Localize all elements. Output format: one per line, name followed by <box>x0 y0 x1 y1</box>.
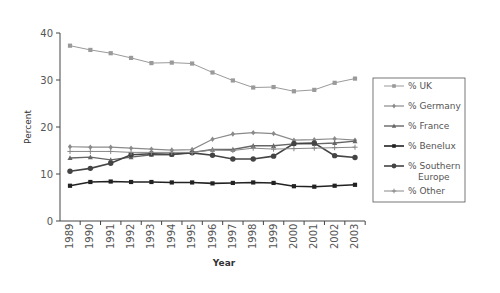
data-point <box>333 184 337 188</box>
data-point <box>109 179 113 183</box>
y-tick-label: 30 <box>40 75 53 86</box>
chart-series <box>67 44 357 189</box>
y-tick-label: 40 <box>40 28 53 39</box>
legend-box <box>373 78 465 202</box>
data-point <box>312 88 316 92</box>
data-point <box>210 153 215 158</box>
x-tick-label: 1996 <box>207 224 218 249</box>
data-point <box>231 131 235 136</box>
data-point <box>231 181 235 185</box>
data-point <box>170 61 174 65</box>
data-point <box>353 183 357 187</box>
data-point <box>88 48 92 52</box>
data-point <box>68 184 72 188</box>
legend-label-line2: Europe <box>418 172 450 182</box>
chart-legend: % UK% Germany% France% Benelux% Southern… <box>373 78 465 202</box>
data-point <box>312 140 317 145</box>
legend-label: % Other <box>408 186 445 196</box>
y-tick-label: 20 <box>40 122 53 133</box>
x-tick-label: 1998 <box>247 224 258 249</box>
data-point <box>271 85 275 89</box>
data-point <box>210 70 214 74</box>
data-point <box>251 130 255 135</box>
series---uk <box>68 44 357 94</box>
data-point <box>271 153 276 158</box>
x-tick-label: 2000 <box>288 224 299 249</box>
data-point <box>67 168 72 173</box>
x-tick-label: 2001 <box>308 224 319 249</box>
x-tick-label: 1995 <box>186 224 197 249</box>
data-point <box>170 180 174 184</box>
data-point <box>292 184 296 188</box>
data-point <box>271 131 275 136</box>
data-point <box>68 144 72 149</box>
data-point <box>332 153 337 158</box>
data-point <box>392 144 396 148</box>
x-tick-label: 2003 <box>349 224 360 249</box>
data-point <box>149 61 153 65</box>
data-point <box>190 61 194 65</box>
legend-label: % Benelux <box>408 141 457 151</box>
chart-axes: 0102030401989199019911992199319941995199… <box>40 28 365 249</box>
x-tick-label: 2002 <box>329 224 340 249</box>
data-point <box>108 160 113 165</box>
data-point <box>291 141 296 146</box>
legend-label: % France <box>408 121 450 131</box>
data-point <box>353 76 357 80</box>
data-point <box>68 44 72 48</box>
x-tick-label: 1994 <box>166 224 177 249</box>
data-point <box>312 185 316 189</box>
legend-label: % UK <box>408 81 433 91</box>
data-point <box>231 78 235 82</box>
data-point <box>88 166 93 171</box>
data-point <box>129 56 133 60</box>
data-point <box>230 156 235 161</box>
data-point <box>149 180 153 184</box>
data-point <box>271 181 275 185</box>
data-point <box>88 180 92 184</box>
data-point <box>251 85 255 89</box>
data-point <box>392 84 396 88</box>
data-point <box>292 89 296 93</box>
x-tick-label: 1992 <box>125 224 136 249</box>
line-chart: 0102030401989199019911992199319941995199… <box>0 0 500 293</box>
y-tick-label: 0 <box>47 216 53 227</box>
x-tick-label: 1991 <box>105 224 116 249</box>
data-point <box>352 155 357 160</box>
data-point <box>109 51 113 55</box>
data-point <box>251 180 255 184</box>
x-tick-label: 1997 <box>227 224 238 249</box>
legend-label: % Germany <box>408 101 461 111</box>
x-tick-label: 1990 <box>84 224 95 249</box>
data-point <box>210 181 214 185</box>
data-point <box>210 137 214 142</box>
data-point <box>190 180 194 184</box>
y-axis-title: Percent <box>23 110 33 144</box>
data-point <box>129 180 133 184</box>
series---benelux <box>68 179 357 188</box>
y-tick-label: 10 <box>40 169 53 180</box>
x-tick-label: 1993 <box>145 224 156 249</box>
x-axis-title: Year <box>212 258 236 268</box>
data-point <box>251 156 256 161</box>
data-point <box>333 81 337 85</box>
x-tick-label: 1989 <box>64 224 75 249</box>
legend-label: % Southern <box>408 161 460 171</box>
data-point <box>392 164 397 169</box>
x-tick-label: 1999 <box>268 224 279 249</box>
